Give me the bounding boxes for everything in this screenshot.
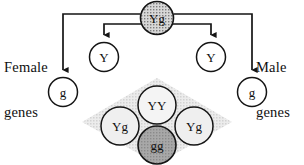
- gamete-male-y-label: Y: [206, 50, 216, 65]
- gamete-female-y-label: Y: [99, 50, 109, 65]
- offspring-gg-node: gg: [138, 126, 176, 164]
- offspring-yg-right-label: Yg: [186, 119, 202, 134]
- offspring-yg-right-node: Yg: [175, 107, 213, 145]
- female-genes-label: Female genes: [4, 30, 48, 150]
- male-genes-line2: genes: [256, 105, 290, 120]
- connector-parent-to-male-y: [172, 24, 211, 35]
- offspring-yy-label: YY: [148, 98, 167, 113]
- offspring-yg-left-label: Yg: [112, 119, 128, 134]
- male-genes-line1: Male: [256, 60, 290, 75]
- female-genes-line2: genes: [4, 105, 48, 120]
- female-genes-line1: Female: [4, 60, 48, 75]
- gamete-male-g-label: g: [249, 85, 256, 100]
- gamete-female-y-node: Y: [90, 43, 119, 72]
- offspring-gg-label: gg: [151, 138, 165, 153]
- offspring-yg-left-node: Yg: [101, 107, 139, 145]
- parent-genotype-node: Yg: [141, 2, 174, 35]
- parent-genotype-label: Yg: [149, 11, 165, 26]
- male-genes-label: Male genes: [256, 30, 290, 150]
- gamete-female-g-label: g: [60, 85, 67, 100]
- genetics-cross-diagram: Yg g Y Y g YY Yg: [0, 0, 304, 165]
- gamete-female-g-node: g: [49, 78, 78, 107]
- gamete-male-y-node: Y: [197, 43, 226, 72]
- offspring-yy-node: YY: [138, 86, 176, 124]
- connector-parent-to-female-y: [104, 24, 142, 35]
